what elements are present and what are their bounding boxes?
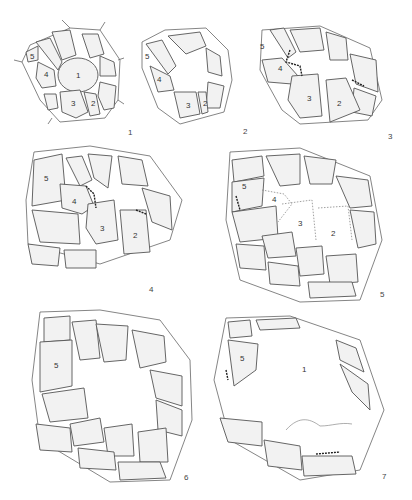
panel-2: 5 4 3 2 2 <box>142 28 248 136</box>
cell-label: 4 <box>72 197 77 206</box>
cell-label: 2 <box>91 99 96 108</box>
panel-6: 5 6 <box>32 310 192 482</box>
cell-label: 2 <box>133 231 138 240</box>
cell-label: 1 <box>76 71 81 80</box>
cell-label: 5 <box>44 174 49 183</box>
panel-4: 5 4 3 2 4 <box>26 146 182 294</box>
panel-5: 5 4 3 2 5 <box>226 148 385 302</box>
cell-label: 2 <box>337 99 342 108</box>
cell-label: 3 <box>298 219 303 228</box>
cell-label: 5 <box>54 361 59 370</box>
cell-label: 3 <box>71 99 76 108</box>
cell-label: 3 <box>186 101 191 110</box>
cell-label: 5 <box>145 52 150 61</box>
panel-label: 3 <box>388 132 393 141</box>
cell-label: 3 <box>307 94 312 103</box>
cell-label: 5 <box>242 182 247 191</box>
cell-label: 4 <box>44 70 49 79</box>
panel-label: 2 <box>243 127 248 136</box>
panel-label: 1 <box>128 128 133 137</box>
panel-7: 5 1 7 <box>214 316 387 481</box>
cell-label: 4 <box>278 64 283 73</box>
cell-label: 1 <box>302 365 307 374</box>
cell-label: 5 <box>30 52 35 61</box>
panel-1: 1 2 3 4 5 1 <box>14 20 133 137</box>
panel-label: 5 <box>380 290 385 299</box>
cell-label: 5 <box>240 354 245 363</box>
cell-label: 4 <box>272 195 277 204</box>
cell-label: 3 <box>100 224 105 233</box>
panel-label: 4 <box>149 285 154 294</box>
cell-label: 2 <box>331 229 336 238</box>
cell-label: 2 <box>203 99 208 108</box>
panel-label: 6 <box>184 473 189 482</box>
panel-label: 7 <box>382 472 387 481</box>
cell-label: 5 <box>260 42 265 51</box>
cell-label: 4 <box>157 75 162 84</box>
figure-canvas: 1 2 3 4 5 1 5 4 3 2 2 5 4 3 2 <box>0 0 412 500</box>
panel-3: 5 4 3 2 3 <box>260 26 393 141</box>
